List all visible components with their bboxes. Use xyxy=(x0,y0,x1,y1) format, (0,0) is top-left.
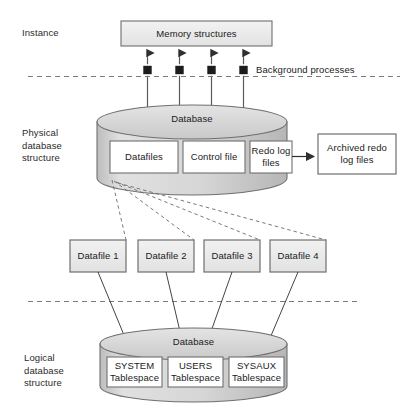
archived-redo-log-files-box xyxy=(318,134,396,174)
background-processes-label: Background processes xyxy=(256,64,355,75)
background-process-squares xyxy=(143,65,249,75)
diagram-canvas: Instance Physical database structure Log… xyxy=(0,0,413,415)
side-label-logical-database-structure: Logical database structure xyxy=(24,352,64,390)
side-label-physical-database-structure: Physical database structure xyxy=(22,127,62,165)
physical-component-boxes xyxy=(110,141,292,173)
tablespace-boxes xyxy=(107,357,284,387)
side-label-instance: Instance xyxy=(22,27,59,40)
memory-structures-box xyxy=(121,21,272,46)
datafile-boxes xyxy=(70,240,326,272)
background-process-arrows xyxy=(148,53,244,112)
